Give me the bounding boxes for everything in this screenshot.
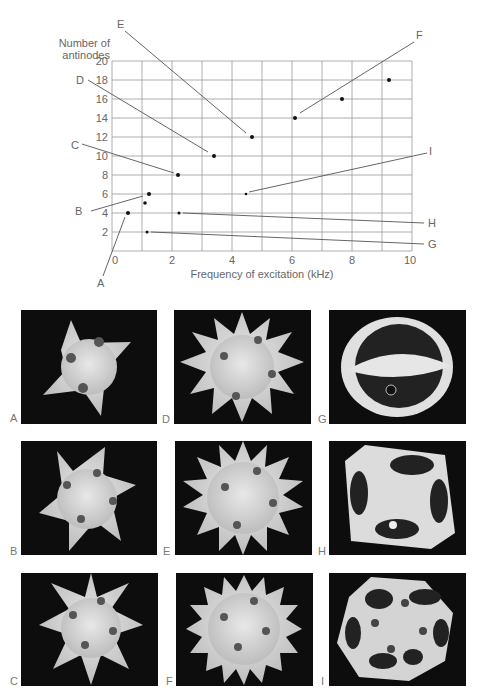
callout-C: C — [71, 139, 79, 151]
photo-panel-E — [175, 441, 312, 555]
callout-E: E — [117, 18, 124, 30]
callout-H: H — [428, 217, 436, 229]
photo-panel-A — [21, 310, 157, 424]
svg-text:2: 2 — [102, 226, 108, 238]
svg-text:6: 6 — [102, 188, 108, 200]
panel-label-C: C — [10, 675, 18, 687]
panel-label-A: A — [10, 412, 17, 424]
panel-label-I: I — [321, 675, 324, 687]
callout-F: F — [416, 29, 423, 41]
svg-text:16: 16 — [96, 93, 108, 105]
svg-text:8: 8 — [349, 254, 355, 266]
svg-text:4: 4 — [229, 254, 235, 266]
panel-label-F: F — [166, 675, 173, 687]
photo-panel-H — [329, 441, 466, 555]
y-ticks: 20 18 16 14 12 10 8 6 4 2 — [96, 55, 108, 238]
chart-grid — [112, 61, 412, 251]
svg-text:4: 4 — [102, 207, 108, 219]
photo-panel-I — [329, 573, 466, 686]
svg-text:18: 18 — [96, 74, 108, 86]
panel-label-D: D — [162, 413, 170, 425]
svg-text:14: 14 — [96, 112, 108, 124]
svg-text:6: 6 — [289, 254, 295, 266]
photo-panel-B — [21, 441, 157, 555]
photo-panel-D — [174, 310, 311, 424]
callout-B: B — [75, 205, 82, 217]
panel-label-H: H — [318, 545, 326, 557]
leader-lines — [82, 31, 427, 276]
panel-label-B: B — [10, 545, 17, 557]
svg-text:0: 0 — [112, 254, 118, 266]
photo-panel-C — [21, 573, 158, 686]
svg-text:20: 20 — [96, 55, 108, 67]
callout-I: I — [429, 145, 432, 157]
photo-panel-G — [329, 310, 466, 424]
svg-text:2: 2 — [169, 254, 175, 266]
y-axis-label-line1: Number of — [59, 37, 111, 49]
svg-text:10: 10 — [404, 254, 416, 266]
callout-A: A — [97, 277, 105, 289]
svg-text:12: 12 — [96, 131, 108, 143]
photo-panel-F — [176, 573, 313, 686]
svg-text:8: 8 — [102, 169, 108, 181]
x-axis-label: Frequency of excitation (kHz) — [190, 268, 333, 280]
antinodes-chart: Number of antinodes 20 18 16 14 12 10 8 … — [0, 0, 483, 295]
panel-label-G: G — [318, 413, 327, 425]
x-ticks: 0 2 4 6 8 10 — [112, 254, 416, 266]
callout-D: D — [76, 74, 84, 86]
panel-label-E: E — [163, 545, 170, 557]
callout-G: G — [428, 238, 437, 250]
